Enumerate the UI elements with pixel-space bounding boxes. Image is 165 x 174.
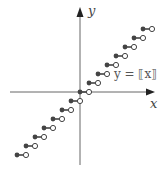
closed-dot [33, 135, 38, 140]
open-dot [23, 152, 28, 157]
closed-dot [96, 72, 101, 77]
open-dot [50, 125, 55, 130]
closed-dot [105, 63, 110, 68]
step--3 [51, 116, 65, 121]
step--1 [69, 98, 83, 103]
closed-dot [42, 126, 47, 131]
closed-dot [78, 90, 83, 95]
step--6 [24, 143, 38, 148]
closed-dot [87, 81, 92, 86]
closed-dot [60, 108, 65, 113]
closed-dot [24, 144, 29, 149]
step-4 [114, 53, 128, 58]
open-dot [149, 26, 154, 31]
x-axis-arrow-icon [146, 89, 155, 96]
open-dot [86, 89, 91, 94]
closed-dot [69, 99, 74, 104]
open-dot [41, 134, 46, 139]
open-dot [131, 44, 136, 49]
step-0 [78, 89, 92, 94]
open-dot [77, 98, 82, 103]
step-1 [87, 80, 101, 85]
y-axis-label: y [88, 3, 95, 18]
step--5 [33, 134, 47, 139]
open-dot [140, 35, 145, 40]
x-axis-label: x [150, 96, 157, 111]
open-dot [104, 71, 109, 76]
open-dot [122, 53, 127, 58]
step--7 [15, 152, 29, 157]
closed-dot [51, 117, 56, 122]
step-2 [96, 71, 110, 76]
open-dot [95, 80, 100, 85]
open-dot [68, 107, 73, 112]
open-dot [32, 143, 37, 148]
closed-dot [114, 54, 119, 59]
step--4 [42, 125, 56, 130]
open-dot [59, 116, 64, 121]
step-5 [123, 44, 137, 49]
y-axis-arrow-icon [77, 7, 84, 17]
closed-dot [15, 153, 20, 158]
closed-dot [141, 27, 146, 32]
closed-dot [132, 36, 137, 41]
equation-label: y = ⟦x⟧ [114, 67, 157, 81]
step-7 [141, 26, 155, 31]
closed-dot [123, 45, 128, 50]
step-function-graph [0, 0, 165, 174]
step--2 [60, 107, 74, 112]
step-6 [132, 35, 146, 40]
